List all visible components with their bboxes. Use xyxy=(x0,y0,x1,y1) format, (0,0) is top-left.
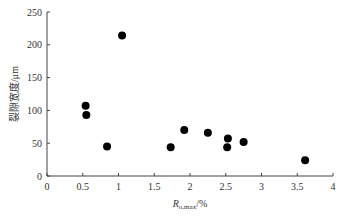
x-tick-label: 3.5 xyxy=(291,181,304,192)
x-axis-title: Ro,max/% xyxy=(172,198,208,211)
data-point xyxy=(103,142,111,150)
x-tick-label: 3 xyxy=(259,181,264,192)
data-point xyxy=(82,102,90,110)
x-tick-label: 1.5 xyxy=(148,181,161,192)
x-tick-label: 4 xyxy=(331,181,336,192)
x-tick-label: 0.5 xyxy=(77,181,90,192)
x-tick-label: 2 xyxy=(188,181,193,192)
data-points xyxy=(82,32,310,165)
data-point xyxy=(223,143,231,151)
data-point xyxy=(180,126,188,134)
x-axis-title-main: R xyxy=(172,198,179,209)
y-tick-label: 100 xyxy=(27,105,42,116)
data-point xyxy=(118,32,126,40)
x-tick-label: 1 xyxy=(116,181,121,192)
data-point xyxy=(167,143,175,151)
y-tick-label: 50 xyxy=(32,138,42,149)
y-tick-label: 150 xyxy=(27,72,42,83)
scatter-chart: 050100150200250 00.511.522.533.54 裂隙宽度/μ… xyxy=(0,0,342,218)
axes xyxy=(47,12,333,176)
data-point xyxy=(224,135,232,143)
y-tick-label: 200 xyxy=(27,39,42,50)
data-point xyxy=(301,156,309,164)
x-axis-title-sub: o,max xyxy=(179,203,197,211)
data-point xyxy=(240,138,248,146)
y-axis-title: 裂隙宽度/μm xyxy=(8,66,20,122)
x-axis-title-unit: /% xyxy=(196,198,207,209)
y-tick-label: 0 xyxy=(37,171,42,182)
data-point xyxy=(204,129,212,137)
x-tick-label: 2.5 xyxy=(220,181,233,192)
y-tick-label: 250 xyxy=(27,7,42,18)
x-tick-label: 0 xyxy=(45,181,50,192)
data-point xyxy=(82,111,90,119)
